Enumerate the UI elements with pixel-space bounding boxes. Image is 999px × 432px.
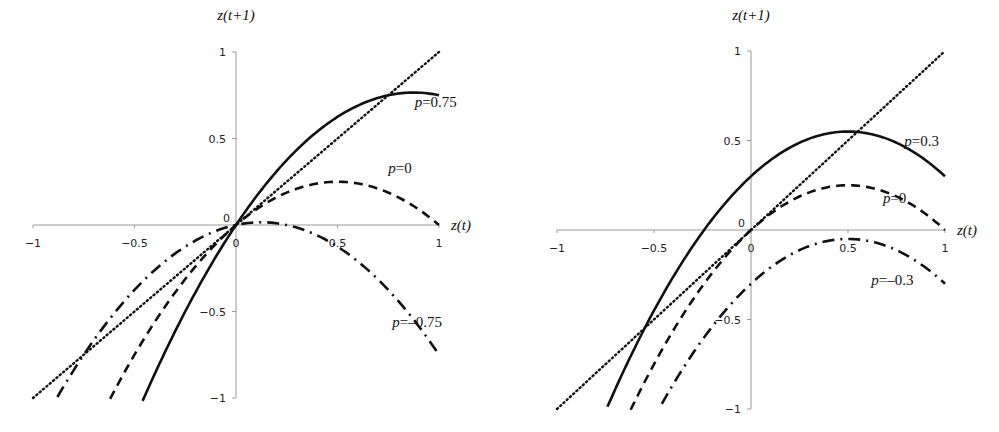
y-tick-label: 0.5: [724, 135, 742, 148]
x-axis-label: z(t): [956, 222, 977, 239]
y-tick-label: 1: [734, 45, 741, 58]
y-tick-label: −1: [210, 392, 226, 405]
series-solid-line: [607, 132, 945, 407]
y-tick-label: −1: [725, 403, 741, 416]
y-tick-label: 0: [223, 212, 230, 225]
x-tick-label: −1: [25, 237, 41, 250]
y-tick-label: 1: [219, 46, 226, 59]
series-label: p=0: [882, 190, 906, 206]
x-axis-label: z(t): [450, 217, 471, 234]
x-tick-label: −1: [549, 242, 565, 255]
series-label: p=0: [387, 160, 411, 176]
x-tick-label: 1: [436, 237, 443, 250]
left-chart: −1−0.500.5110.50−0.5−1z(t+1)z(t)p=0.75p=…: [25, 7, 471, 405]
right-chart: −1−0.500.5110.50−0.5−1z(t+1)z(t)p=0.3p=0…: [549, 7, 977, 416]
x-tick-label: 0.5: [839, 242, 857, 255]
y-tick-label: 0: [738, 217, 745, 230]
series-label: p=–0.3: [870, 272, 913, 288]
series-label: p=0.3: [903, 133, 939, 149]
y-tick-label: −0.5: [714, 314, 741, 327]
x-tick-label: −0.5: [121, 237, 148, 250]
y-axis-label: z(t+1): [731, 7, 770, 24]
x-tick-label: 0.5: [329, 237, 347, 250]
chart-canvas: −1−0.500.5110.50−0.5−1z(t+1)z(t)p=0.75p=…: [0, 0, 999, 432]
x-tick-label: 0: [233, 237, 240, 250]
x-tick-label: 0: [748, 242, 755, 255]
series-label: p=0.75: [414, 94, 457, 110]
y-axis-label: z(t+1): [216, 7, 255, 24]
series-dashdot-line: [57, 222, 439, 397]
series-label: p=–0.75: [391, 314, 442, 330]
x-tick-label: 1: [942, 242, 949, 255]
x-tick-label: −0.5: [641, 242, 668, 255]
series-dashdot-line: [662, 239, 945, 404]
y-tick-label: 0.5: [209, 133, 227, 146]
y-tick-label: −0.5: [199, 306, 226, 319]
